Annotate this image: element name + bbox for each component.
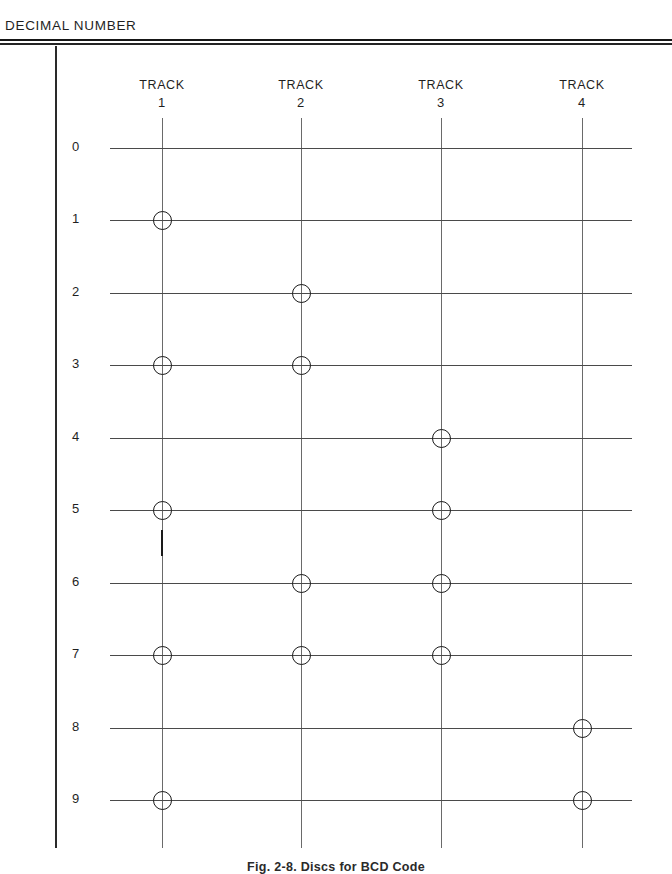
row-label-3: 3 — [72, 356, 98, 371]
hole-marker-d6-t2 — [292, 574, 311, 593]
hole-marker-d7-t2 — [292, 646, 311, 665]
row-label-8: 8 — [72, 719, 98, 734]
track-line-4 — [582, 118, 583, 848]
row-label-6: 6 — [72, 574, 98, 589]
hole-marker-d7-t1 — [153, 646, 172, 665]
row-line-7 — [110, 655, 632, 656]
track-header-number: 4 — [537, 94, 627, 113]
track-header-number: 3 — [396, 94, 486, 113]
hole-marker-d7-t3 — [432, 646, 451, 665]
row-label-0: 0 — [72, 139, 98, 154]
track-header-1: TRACK1 — [117, 76, 207, 113]
hole-marker-d2-t2 — [292, 284, 311, 303]
decimal-number-axis-line — [55, 46, 57, 848]
row-line-8 — [110, 728, 632, 729]
row-line-0 — [110, 148, 632, 149]
row-line-1 — [110, 220, 632, 221]
decimal-number-axis-title: DECIMAL NUMBER — [5, 18, 137, 33]
track-header-label: TRACK — [559, 78, 604, 92]
hole-marker-d5-t1 — [153, 501, 172, 520]
hole-marker-d8-t4 — [573, 719, 592, 738]
row-line-3 — [110, 365, 632, 366]
hole-marker-d9-t1 — [153, 791, 172, 810]
track-header-3: TRACK3 — [396, 76, 486, 113]
hole-marker-d9-t4 — [573, 791, 592, 810]
track-line-2 — [301, 118, 302, 848]
track-header-number: 2 — [256, 94, 346, 113]
hole-marker-d3-t2 — [292, 356, 311, 375]
track-header-4: TRACK4 — [537, 76, 627, 113]
header-rule-thin — [0, 43, 672, 45]
track-line-3 — [441, 118, 442, 848]
row-label-7: 7 — [72, 646, 98, 661]
hole-marker-d1-t1 — [153, 211, 172, 230]
hole-marker-d6-t3 — [432, 574, 451, 593]
figure-caption: Fig. 2-8. Discs for BCD Code — [0, 860, 672, 874]
row-line-9 — [110, 800, 632, 801]
row-label-9: 9 — [72, 791, 98, 806]
hole-marker-d5-t3 — [432, 501, 451, 520]
track-header-number: 1 — [117, 94, 207, 113]
row-line-6 — [110, 583, 632, 584]
row-label-5: 5 — [72, 501, 98, 516]
track-header-label: TRACK — [278, 78, 323, 92]
header-rule-thick — [0, 39, 672, 41]
hole-marker-d4-t3 — [432, 429, 451, 448]
row-line-4 — [110, 438, 632, 439]
hole-marker-d3-t1 — [153, 356, 172, 375]
bcd-disc-figure: DECIMAL NUMBER TRACK1TRACK2TRACK3TRACK4 … — [0, 0, 672, 874]
track-header-label: TRACK — [139, 78, 184, 92]
row-line-5 — [110, 510, 632, 511]
track-header-label: TRACK — [418, 78, 463, 92]
row-label-4: 4 — [72, 429, 98, 444]
row-label-2: 2 — [72, 284, 98, 299]
row-line-2 — [110, 293, 632, 294]
track-header-2: TRACK2 — [256, 76, 346, 113]
scan-ink-artifact — [161, 530, 163, 556]
row-label-1: 1 — [72, 211, 98, 226]
